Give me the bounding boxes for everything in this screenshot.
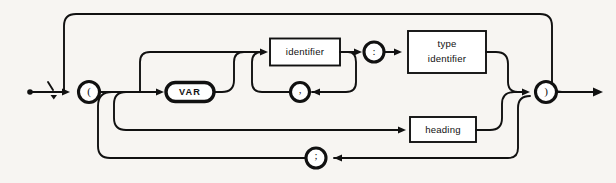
rail-heading-to-close-paren (476, 92, 524, 130)
arrow-entry-tick-head (51, 95, 58, 100)
colon-glyph: : (372, 45, 375, 57)
rail-type-to-close-paren (486, 52, 524, 92)
arrow-exit (593, 88, 603, 97)
type-identifier-label-line1: type (438, 38, 457, 49)
arrow-into-semicolon (334, 154, 342, 161)
railroad-diagram-svg: ( VAR identifier , (0, 0, 616, 183)
arrow-into-type-identifier (394, 48, 402, 55)
identifier-label: identifier (286, 46, 325, 57)
rail-var-to-identifier (214, 52, 262, 92)
arrow-into-var (156, 88, 164, 95)
close-paren-glyph: ) (544, 85, 548, 98)
arrow-into-comma (312, 88, 320, 95)
arrow-into-heading (398, 126, 406, 133)
semicolon-glyph: ; (314, 149, 317, 161)
rail-entry-tick (48, 82, 53, 90)
rail-heading-branch (114, 92, 400, 130)
var-keyword-label: VAR (179, 87, 201, 97)
comma-glyph: , (299, 83, 302, 95)
syntax-diagram-canvas: ( VAR identifier , (0, 0, 616, 183)
heading-label: heading (425, 124, 461, 135)
type-identifier-label-line2: identifier (428, 53, 467, 64)
open-paren-glyph: ( (87, 85, 91, 98)
